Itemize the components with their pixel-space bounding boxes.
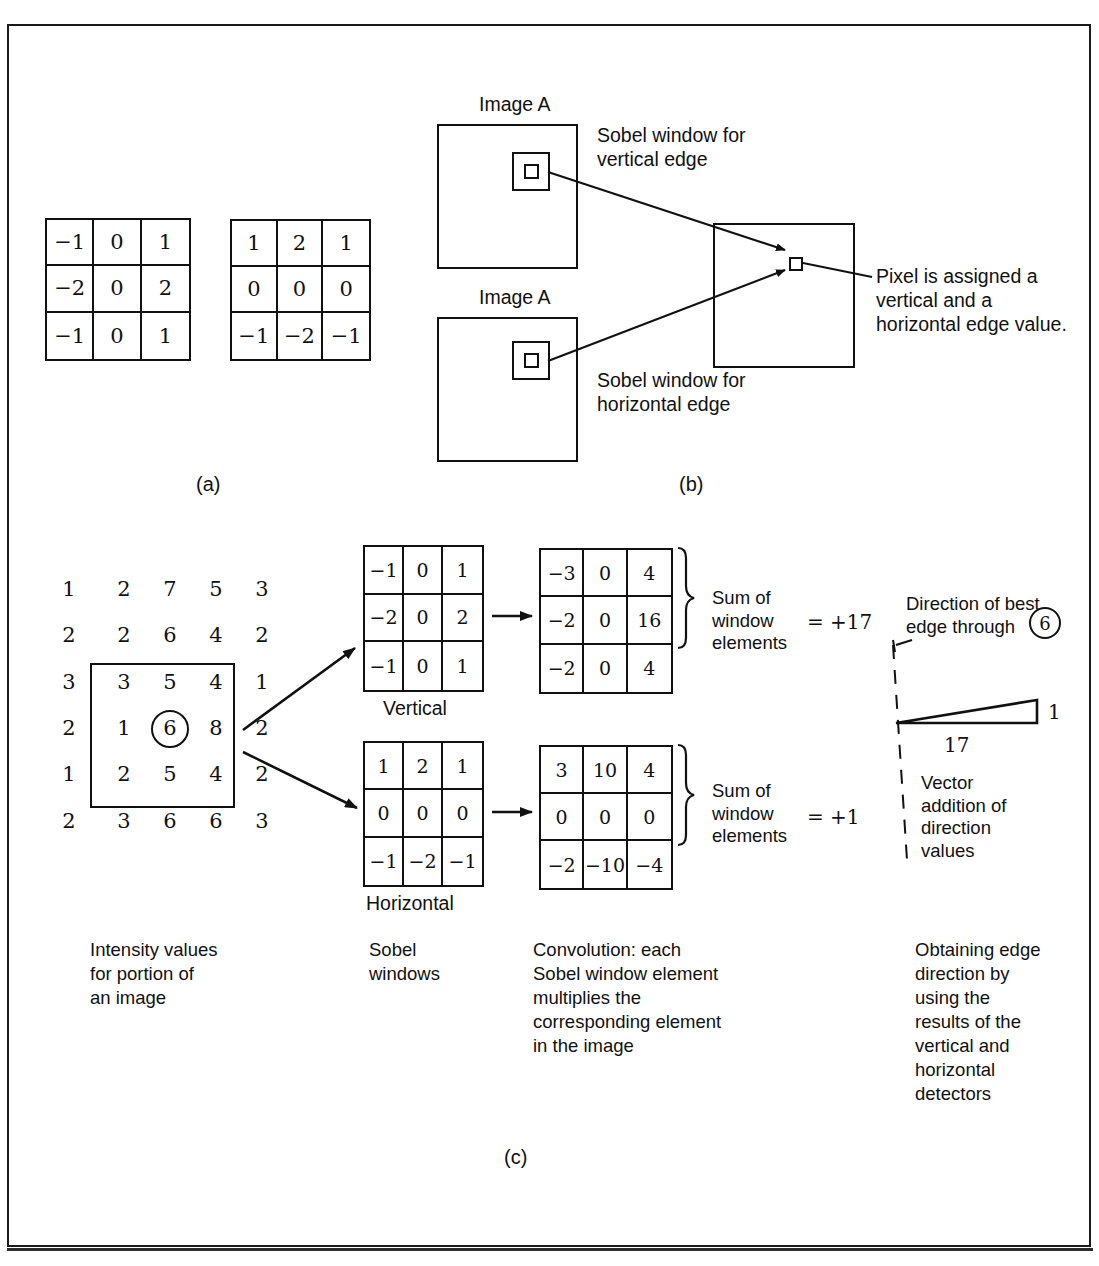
vector-addition-caption: Vector addition of direction values xyxy=(921,772,1006,862)
caption-intensity-values: Intensity values for portion of an image xyxy=(90,938,218,1010)
caption-convolution: Convolution: each Sobel window element m… xyxy=(533,938,721,1058)
vector-vertical-component-label: 1 xyxy=(1048,700,1061,724)
panel-label-c: (c) xyxy=(504,1146,527,1169)
caption-edge-direction: Obtaining edge direction by using the re… xyxy=(915,938,1041,1106)
figure-page: −1 0 1 −2 0 2 −1 0 1 1 2 1 0 0 0 −1 −2 −… xyxy=(0,0,1099,1266)
vector-horizontal-component-label: 17 xyxy=(944,733,969,757)
caption-sobel-windows: Sobel windows xyxy=(369,938,440,986)
